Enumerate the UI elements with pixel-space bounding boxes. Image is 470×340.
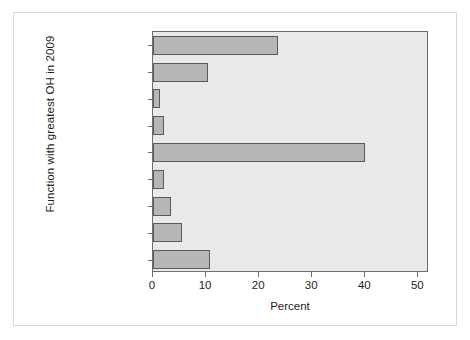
bar-row <box>153 246 427 273</box>
bar <box>153 223 182 242</box>
bar-row <box>153 193 427 220</box>
chart-page: Function with greatest OH in 2009 Percen… <box>0 0 470 340</box>
bar-row <box>153 32 427 59</box>
y-axis-tick <box>148 206 153 207</box>
bar-row <box>153 59 427 86</box>
x-axis-tick <box>205 272 206 277</box>
x-axis-tick <box>152 272 153 277</box>
bar <box>153 89 160 108</box>
bar <box>153 250 210 269</box>
x-axis-tick <box>258 272 259 277</box>
y-axis-tick <box>148 45 153 46</box>
x-axis-tick-label: 40 <box>344 279 384 291</box>
bar <box>153 197 171 216</box>
x-axis-tick <box>311 272 312 277</box>
y-axis-tick <box>148 233 153 234</box>
x-axis-tick-label: 0 <box>132 279 172 291</box>
y-axis-tick <box>148 260 153 261</box>
bar-row <box>153 86 427 113</box>
y-axis-tick <box>148 126 153 127</box>
bar <box>153 63 208 82</box>
x-axis-tick-label: 10 <box>185 279 225 291</box>
bar <box>153 36 278 55</box>
y-axis-tick <box>148 152 153 153</box>
bar <box>153 143 365 162</box>
bar <box>153 116 164 135</box>
x-axis-tick-label: 30 <box>291 279 331 291</box>
bar <box>153 170 164 189</box>
y-axis-tick <box>148 99 153 100</box>
x-axis-tick <box>417 272 418 277</box>
x-axis-tick-label: 20 <box>238 279 278 291</box>
bar-row <box>153 112 427 139</box>
bar-row <box>153 139 427 166</box>
bar-row <box>153 219 427 246</box>
y-axis-tick <box>148 179 153 180</box>
plot-area <box>152 31 428 272</box>
x-axis-tick <box>364 272 365 277</box>
y-axis-tick <box>148 72 153 73</box>
x-axis-tick-label: 50 <box>397 279 437 291</box>
x-axis-title: Percent <box>152 300 428 312</box>
y-axis-title: Function with greatest OH in 2009 <box>44 4 56 244</box>
bar-row <box>153 166 427 193</box>
